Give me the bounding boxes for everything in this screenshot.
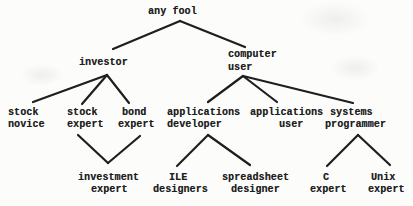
node-investment-expert-line-2: expert (91, 184, 128, 196)
edge-computer-user-to-applications-developer (208, 76, 243, 102)
edge-any-fool-to-investor (113, 21, 180, 49)
node-applications-user-line-1: applications (250, 107, 323, 119)
node-unix-expert-line-2: expert (368, 184, 405, 196)
edge-any-fool-to-computer-user (180, 21, 245, 47)
node-stock-novice-line-2: novice (8, 119, 45, 131)
node-investor: investor (79, 57, 128, 69)
node-computer-user-line-2: user (228, 62, 252, 74)
node-any-fool: any fool (148, 6, 197, 18)
node-bond-expert-line-2: expert (118, 119, 155, 131)
node-spreadsheet-designer-line-1: spreadsheet (222, 172, 289, 184)
node-bond-expert-line-1: bond (122, 107, 146, 119)
edge-applications-developer-to-ile-designers (177, 135, 208, 166)
node-stock-expert-line-1: stock (67, 107, 98, 119)
node-stock-expert-line-2: expert (67, 119, 104, 131)
node-spreadsheet-designer-line-2: designer (231, 184, 280, 196)
node-ile-designers-line-2: designers (153, 184, 208, 196)
edge-systems-programmer-to-c-expert (327, 135, 358, 166)
edge-systems-programmer-to-unix-expert (358, 135, 390, 165)
node-stock-novice-line-1: stock (8, 107, 39, 119)
node-computer-user-line-1: computer (228, 49, 277, 61)
node-applications-developer-line-1: applications (167, 107, 240, 119)
edge-bond-expert-to-investment-expert (108, 136, 140, 163)
node-unix-expert-line-1: Unix (371, 172, 395, 184)
tree-diagram: any foolinvestorcomputeruserstocknovices… (0, 0, 413, 206)
node-systems-programmer-line-2: programmer (325, 119, 386, 131)
tree-edges (0, 0, 413, 206)
node-applications-user-line-2: user (279, 119, 303, 131)
node-c-expert-line-2: expert (310, 184, 347, 196)
node-investment-expert-line-1: investment (78, 172, 139, 184)
edge-applications-developer-to-spreadsheet-designer (208, 135, 250, 165)
node-applications-developer-line-2: developer (167, 119, 222, 131)
node-ile-designers-line-1: ILE (169, 172, 187, 184)
edge-stock-expert-to-investment-expert (78, 135, 108, 163)
node-systems-programmer-line-1: systems (330, 107, 373, 119)
edge-investor-to-bond-expert (107, 75, 129, 103)
node-c-expert-line-1: C (323, 172, 329, 184)
